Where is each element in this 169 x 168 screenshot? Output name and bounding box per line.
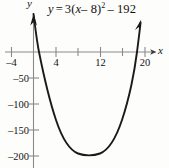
parabola-figure: y=3(x– 8)2– 192 x y –4 4 12 20 –50 –100 … xyxy=(0,0,169,168)
x-tick-label-4: 4 xyxy=(53,57,58,68)
equation-inner-term: – 8) xyxy=(81,2,101,16)
y-tick-label-neg100: –100 xyxy=(0,99,29,110)
parabola-curve xyxy=(34,14,141,155)
equation-exponent: 2 xyxy=(101,1,105,10)
x-axis-label: x xyxy=(158,44,163,56)
equation-annotation: y=3(x– 8)2– 192 xyxy=(48,2,136,17)
equation-coefficient: 3( xyxy=(65,2,76,16)
y-tick-label-neg200: –200 xyxy=(0,151,29,162)
equation-constant: – 192 xyxy=(107,2,136,16)
plot-canvas xyxy=(0,0,169,168)
y-tick-label-neg150: –150 xyxy=(0,125,29,136)
y-tick-label-neg50: –50 xyxy=(0,73,29,84)
y-axis-label: y xyxy=(27,0,32,9)
x-tick-label-20: 20 xyxy=(140,57,151,68)
x-tick-label-12: 12 xyxy=(95,57,106,68)
x-tick-label-neg4: –4 xyxy=(6,57,17,68)
equation-equals: = xyxy=(56,2,63,16)
equation-lhs: y xyxy=(48,2,54,16)
